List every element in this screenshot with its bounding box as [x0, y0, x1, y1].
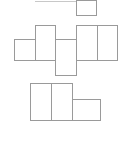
- net-face: [30, 83, 52, 121]
- edge-line: [35, 1, 76, 2]
- net-face: [51, 83, 73, 121]
- net-face: [97, 25, 118, 61]
- net-face: [72, 99, 101, 121]
- net-face: [14, 39, 36, 61]
- net-face: [35, 25, 56, 61]
- net-face: [55, 39, 77, 76]
- diagram-canvas: [0, 0, 123, 141]
- net-face: [76, 25, 98, 61]
- net-face: [76, 0, 97, 16]
